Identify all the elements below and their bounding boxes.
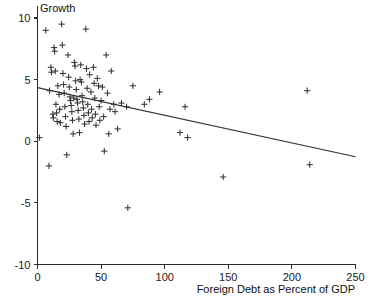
data-point-marker <box>69 109 75 115</box>
data-point-marker <box>74 100 80 106</box>
data-point-marker <box>76 130 82 136</box>
y-tick-label: 10 <box>18 12 30 24</box>
data-point-marker <box>141 101 147 107</box>
data-point-marker <box>88 89 94 95</box>
data-point-marker <box>46 163 52 169</box>
data-point-marker <box>69 117 75 123</box>
x-tick-label: 100 <box>156 271 174 283</box>
data-point-marker <box>66 84 72 90</box>
data-point-marker <box>63 123 69 129</box>
x-tick-label: 150 <box>219 271 237 283</box>
data-point-marker <box>304 88 310 94</box>
data-point-marker <box>184 134 190 140</box>
data-point-marker <box>60 81 66 87</box>
data-point-marker <box>96 104 102 110</box>
data-point-marker <box>54 118 60 124</box>
data-point-marker <box>220 174 226 180</box>
data-point-marker <box>57 120 63 126</box>
data-point-marker <box>88 106 94 112</box>
y-tick-label: 0 <box>24 135 30 147</box>
data-point-marker <box>70 131 76 137</box>
data-point-marker <box>66 74 72 80</box>
data-point-marker <box>68 102 74 108</box>
x-axis-title: Foreign Debt as Percent of GDP <box>197 283 355 295</box>
data-point-marker <box>99 84 105 90</box>
y-axis-title: Growth <box>40 2 75 14</box>
data-point-marker <box>101 114 107 120</box>
data-point-marker <box>51 44 57 50</box>
data-point-marker <box>43 27 49 33</box>
data-point-marker <box>106 131 112 137</box>
data-point-marker <box>65 52 71 58</box>
data-point-marker <box>87 72 93 78</box>
data-point-marker <box>83 65 89 71</box>
data-point-marker <box>104 90 110 96</box>
data-point-marker <box>50 111 56 117</box>
data-point-marker <box>52 68 58 74</box>
data-point-marker <box>72 63 78 69</box>
data-point-marker <box>177 130 183 136</box>
x-tick-label: 200 <box>283 271 301 283</box>
data-point-marker <box>93 122 99 128</box>
x-tick-label: 50 <box>95 271 107 283</box>
data-point-marker <box>94 75 100 81</box>
data-point-marker <box>84 85 90 91</box>
data-point-marker <box>92 111 98 117</box>
y-tick-label: 5 <box>24 74 30 86</box>
data-point-marker <box>103 52 109 58</box>
data-point-marker <box>53 110 59 116</box>
data-point-marker <box>307 162 313 168</box>
x-tick-label: 250 <box>346 271 364 283</box>
plot-area: -10-50510050100150200250 Growth Foreign … <box>0 0 375 300</box>
data-point-marker <box>71 59 77 65</box>
data-point-marker <box>55 83 61 89</box>
data-point-marker <box>64 152 70 158</box>
data-point-marker <box>125 205 131 211</box>
data-point-marker <box>60 70 66 76</box>
data-point-marker <box>83 26 89 32</box>
axis-ticks <box>34 18 356 269</box>
data-point-marker <box>97 117 103 123</box>
data-point-marker <box>73 78 79 84</box>
data-point-marker <box>115 126 121 132</box>
x-tick-label: 0 <box>34 271 40 283</box>
y-tick-label: -10 <box>15 259 31 271</box>
y-tick-label: -5 <box>21 197 31 209</box>
data-point-marker <box>62 114 68 120</box>
data-point-marker <box>146 96 152 102</box>
data-point-marker <box>59 21 65 27</box>
data-point-marker <box>90 64 96 70</box>
trend-line <box>38 88 356 157</box>
data-point-marker <box>182 104 188 110</box>
data-point-marker <box>108 68 114 74</box>
data-points <box>36 21 313 211</box>
data-point-marker <box>59 42 65 48</box>
axes <box>38 6 356 265</box>
data-point-marker <box>53 101 59 107</box>
scatter-chart: -10-50510050100150200250 Growth Foreign … <box>0 0 375 300</box>
data-point-marker <box>78 62 84 68</box>
data-point-marker <box>157 89 163 95</box>
data-point-marker <box>48 64 54 70</box>
regression-line <box>38 88 356 157</box>
data-point-marker <box>130 83 136 89</box>
data-point-marker <box>48 69 54 75</box>
data-point-marker <box>89 115 95 121</box>
data-point-marker <box>101 148 107 154</box>
data-point-marker <box>52 48 58 54</box>
data-point-marker <box>73 86 79 92</box>
data-point-marker <box>50 115 56 121</box>
data-point-marker <box>76 116 82 122</box>
